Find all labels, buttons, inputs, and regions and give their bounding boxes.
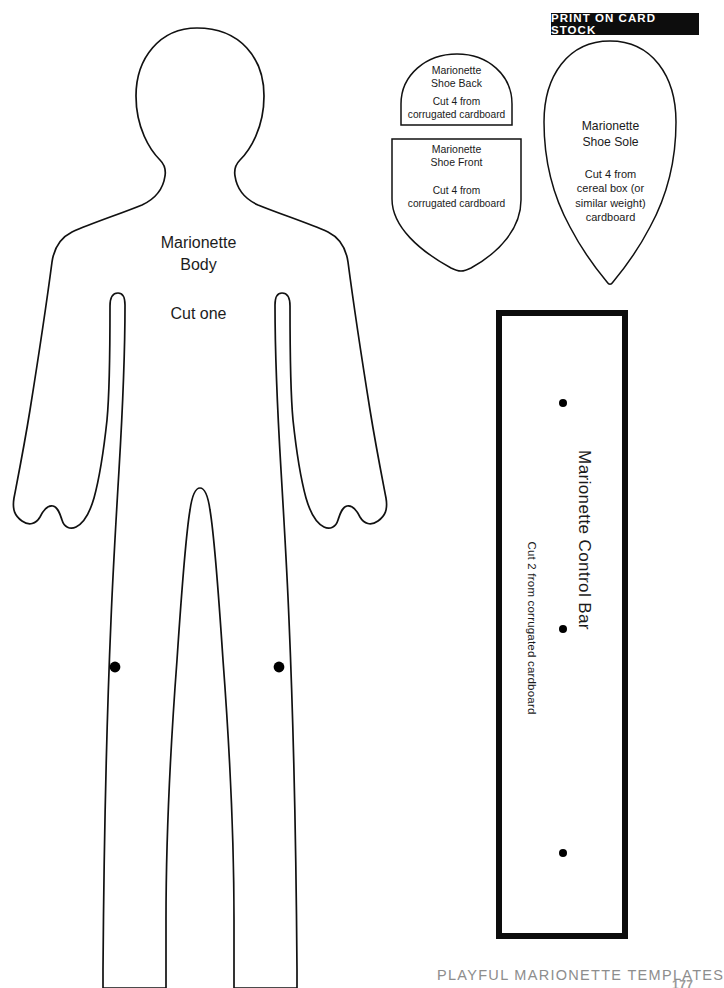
shoe-back-title-line1: Marionette bbox=[390, 64, 523, 77]
shoe-front-instruction-line2: corrugated cardboard bbox=[390, 198, 523, 211]
shoe-sole-label: Marionette Shoe Sole Cut 4 from cereal b… bbox=[544, 118, 677, 225]
footer-page-number: 177 bbox=[672, 978, 694, 988]
shoe-sole-instruction-line3: similar weight) bbox=[544, 196, 677, 211]
shoe-sole-title-line2: Shoe Sole bbox=[544, 134, 677, 150]
control-bar-pivot-dot-bottom bbox=[559, 849, 567, 857]
control-bar-pivot-dot-middle bbox=[559, 625, 567, 633]
body-pivot-dot-left bbox=[110, 662, 121, 673]
shoe-back-instruction-line2: corrugated cardboard bbox=[390, 109, 523, 122]
body-title-line2: Body bbox=[96, 254, 301, 276]
shoe-front-instruction-line1: Cut 4 from bbox=[390, 185, 523, 198]
control-bar-template bbox=[496, 310, 628, 939]
shoe-sole-instruction-line4: cardboard bbox=[544, 210, 677, 225]
shoe-sole-instruction-line1: Cut 4 from bbox=[544, 167, 677, 182]
body-instruction: Cut one bbox=[96, 303, 301, 325]
body-title-line1: Marionette bbox=[96, 232, 301, 254]
shoe-back-title-line2: Shoe Back bbox=[390, 77, 523, 90]
control-bar-title: Marionette Control Bar bbox=[574, 450, 594, 630]
shoe-front-title-line1: Marionette bbox=[390, 143, 523, 156]
shoe-back-instruction-line1: Cut 4 from bbox=[390, 96, 523, 109]
body-pivot-dot-right bbox=[274, 662, 285, 673]
control-bar-pivot-dot-top bbox=[559, 399, 567, 407]
body-template-label: Marionette Body Cut one bbox=[96, 232, 301, 325]
shoe-sole-title-line1: Marionette bbox=[544, 118, 677, 134]
shoe-front-label: Marionette Shoe Front Cut 4 from corruga… bbox=[390, 143, 523, 210]
human-body-silhouette-icon bbox=[13, 28, 386, 988]
control-bar-instruction: Cut 2 from corrugated cardboard bbox=[526, 541, 538, 714]
shoe-front-title-line2: Shoe Front bbox=[390, 156, 523, 169]
shoe-back-label: Marionette Shoe Back Cut 4 from corrugat… bbox=[390, 64, 523, 121]
shoe-sole-instruction-line2: cereal box (or bbox=[544, 181, 677, 196]
